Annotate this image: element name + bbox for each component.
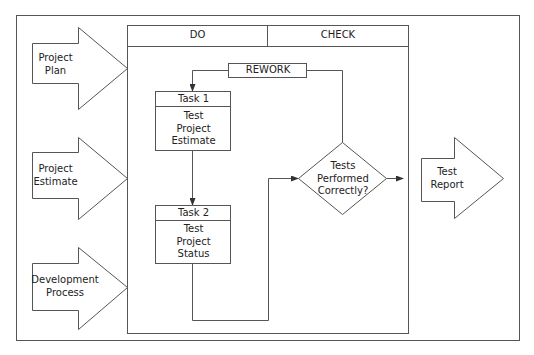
check-header: CHECK — [268, 29, 408, 40]
input-label-project-estimate: Project Estimate — [33, 163, 78, 188]
task1-title: Task 1 — [156, 93, 231, 106]
check-process-diagram: DO CHECK Project Plan Project Estimate D… — [0, 0, 534, 355]
task2-title: Task 2 — [156, 207, 231, 220]
task2-body: Test Project Status — [156, 223, 231, 261]
output-label-test-report: Test Report — [422, 166, 472, 191]
rework-label: REWORK — [229, 64, 307, 77]
task1-body: Test Project Estimate — [156, 110, 231, 148]
input-label-development-process: Development Process — [30, 274, 100, 299]
input-label-project-plan: Project Plan — [33, 52, 78, 77]
do-header: DO — [128, 29, 267, 40]
decision-label: Tests Performed Correctly? — [302, 160, 384, 198]
